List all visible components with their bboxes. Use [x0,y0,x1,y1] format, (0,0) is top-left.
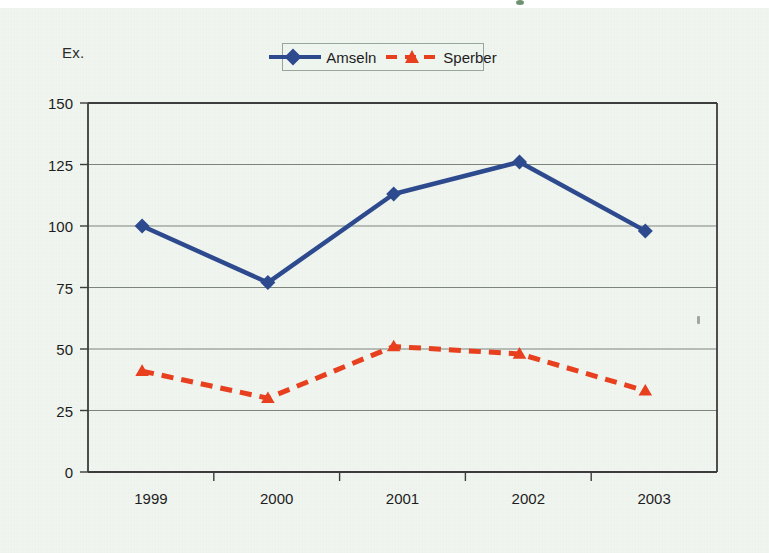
x-axis-tick-label: 2000 [260,490,293,507]
line-chart: 025507510012515019992000200120022003 [0,0,769,553]
x-axis-tick-label: 1999 [134,490,167,507]
chart-page: Ex. Amseln Sperber 025507510012515019992… [0,0,769,553]
y-axis-tick-label: 125 [48,157,73,174]
series-line-amseln [142,162,645,283]
plot-area: 025507510012515019992000200120022003 [0,0,769,553]
x-axis-tick-label: 2002 [512,490,545,507]
y-axis-tick-label: 75 [56,280,73,297]
y-axis-tick-label: 150 [48,95,73,112]
y-axis-tick-label: 50 [56,341,73,358]
y-axis-tick-label: 100 [48,218,73,235]
y-axis-tick-label: 25 [56,403,73,420]
y-axis-tick-label: 0 [65,464,73,481]
data-point-marker [135,219,150,234]
series-line-sperber [142,347,645,399]
data-point-marker [639,384,653,396]
x-axis-tick-label: 2003 [637,490,670,507]
x-axis-tick-label: 2001 [386,490,419,507]
